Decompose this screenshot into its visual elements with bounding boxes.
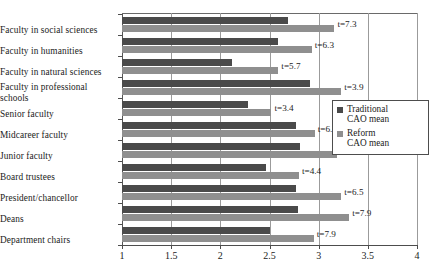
x-tick-mark	[368, 245, 369, 249]
bar-reform	[122, 130, 315, 137]
bar-traditional	[122, 143, 300, 150]
legend-item-reform: Reform CAO mean	[337, 128, 425, 149]
bar-traditional	[122, 17, 288, 24]
category-label: Deans	[0, 214, 116, 225]
x-tick-mark	[171, 245, 172, 249]
chart-legend: Traditional CAO mean Reform CAO mean	[332, 100, 429, 155]
category-label: Board trustees	[0, 172, 116, 183]
bar-reform	[122, 25, 334, 32]
x-tick-label: 1	[120, 250, 125, 261]
legend-label-traditional: Traditional CAO mean	[347, 104, 389, 125]
bar-reform	[122, 46, 312, 53]
t-value-label: t=6.3	[315, 40, 334, 50]
y-tick-mark	[118, 98, 122, 99]
t-value-label: t=7.3	[337, 19, 356, 29]
x-tick-label: 3.5	[362, 250, 375, 261]
x-tick-mark	[270, 245, 271, 249]
t-value-label: t=3.4	[274, 103, 293, 113]
t-value-label: t=4.4	[302, 166, 321, 176]
t-value-label: t=3.9	[344, 82, 363, 92]
bar-traditional	[122, 185, 296, 192]
y-tick-mark	[118, 14, 122, 15]
y-tick-mark	[118, 119, 122, 120]
bar-reform	[122, 193, 341, 200]
bar-traditional	[122, 38, 278, 45]
y-tick-mark	[118, 56, 122, 57]
y-tick-mark	[118, 77, 122, 78]
category-label: Faculty in natural sciences	[0, 67, 116, 78]
y-tick-mark	[118, 224, 122, 225]
bar-reform	[122, 214, 349, 221]
category-label: Senior faculty	[0, 109, 116, 120]
legend-item-traditional: Traditional CAO mean	[337, 104, 425, 125]
legend-swatch-reform-icon	[337, 131, 343, 137]
chart-figure: Faculty in social sciencesFaculty in hum…	[0, 0, 434, 267]
legend-swatch-traditional-icon	[337, 107, 343, 113]
x-tick-mark	[220, 245, 221, 249]
bar-traditional	[122, 101, 248, 108]
category-label: Department chairs	[0, 235, 116, 246]
x-tick-mark	[122, 245, 123, 249]
legend-label-reform: Reform CAO mean	[347, 128, 389, 149]
bar-reform	[122, 67, 278, 74]
category-label: Faculty in professional schools	[0, 82, 116, 103]
bar-reform	[122, 235, 314, 242]
bar-reform	[122, 172, 299, 179]
bar-traditional	[122, 164, 266, 171]
category-label: Midcareer faculty	[0, 130, 116, 141]
bar-traditional	[122, 122, 296, 129]
x-tick-label: 2	[218, 250, 223, 261]
t-value-label: t=7.9	[317, 229, 336, 239]
bar-traditional	[122, 206, 298, 213]
x-tick-label: 1.5	[165, 250, 178, 261]
y-tick-mark	[118, 182, 122, 183]
y-tick-mark	[118, 161, 122, 162]
bar-reform	[122, 109, 271, 116]
x-tick-label: 2.5	[263, 250, 276, 261]
x-tick-label: 3	[316, 250, 321, 261]
category-label: Faculty in social sciences	[0, 25, 116, 36]
y-tick-mark	[118, 140, 122, 141]
bar-traditional	[122, 80, 310, 87]
y-tick-mark	[118, 35, 122, 36]
t-value-label: t=5.7	[281, 61, 300, 71]
x-tick-mark	[417, 245, 418, 249]
category-label: President/chancellor	[0, 193, 116, 204]
x-tick-mark	[319, 245, 320, 249]
category-axis-labels: Faculty in social sciencesFaculty in hum…	[0, 12, 118, 245]
y-tick-mark	[118, 245, 122, 246]
bar-traditional	[122, 59, 232, 66]
y-tick-mark	[118, 203, 122, 204]
category-label: Junior faculty	[0, 151, 116, 162]
bar-traditional	[122, 227, 270, 234]
t-value-label: t=6.5	[344, 187, 363, 197]
t-value-label: t=7.9	[352, 208, 371, 218]
bar-reform	[122, 88, 341, 95]
bar-reform	[122, 151, 337, 158]
x-tick-label: 4	[415, 250, 420, 261]
category-label: Faculty in humanities	[0, 46, 116, 57]
